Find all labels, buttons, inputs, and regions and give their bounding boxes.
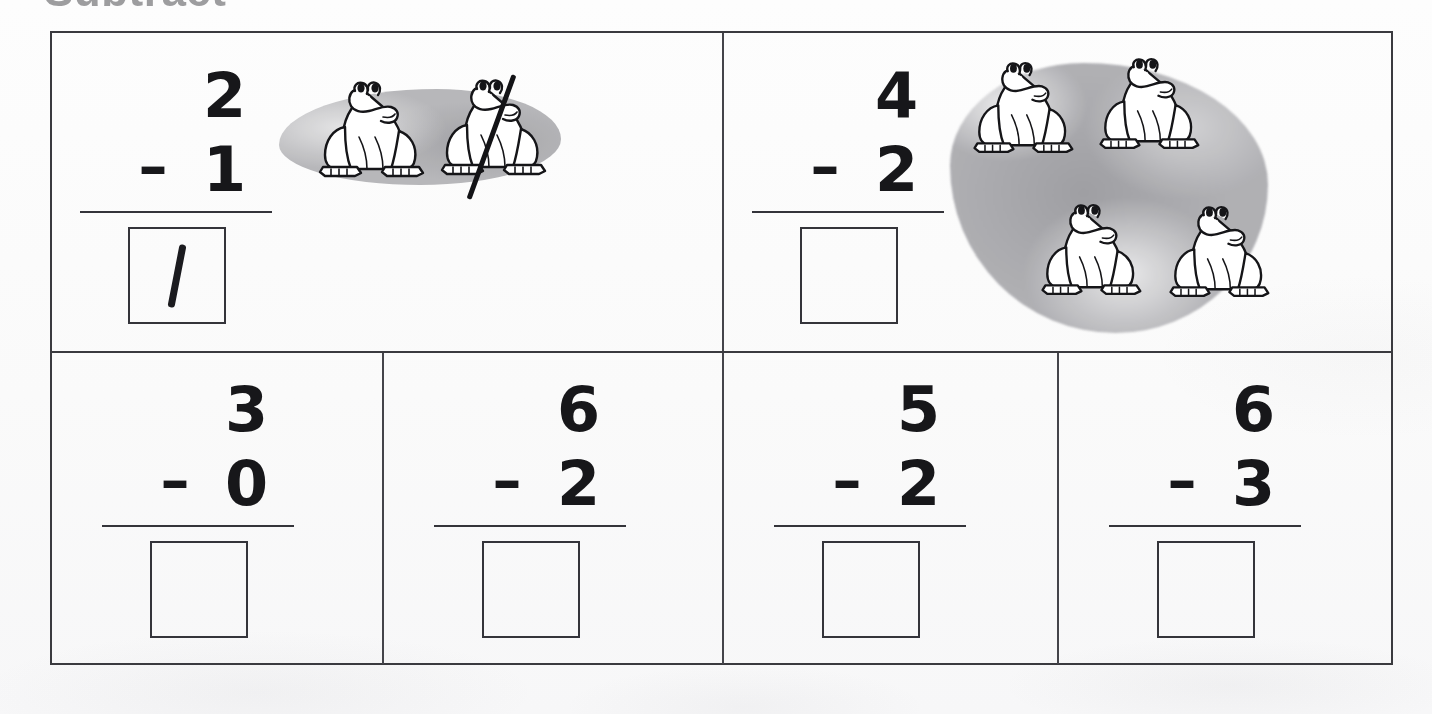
- minus-sign-icon: –: [1159, 451, 1205, 509]
- subtraction-problem-4: 6 – 2: [434, 373, 626, 638]
- minus-sign-icon: –: [484, 451, 530, 509]
- worksheet-page: Subtract 2 – 1: [0, 0, 1432, 714]
- problem-cell-3[interactable]: 3 – 0: [52, 353, 382, 664]
- answer-rule-2: [752, 211, 944, 213]
- subtraction-problem-6: 6 – 3: [1109, 373, 1301, 638]
- answer-rule-1: [80, 211, 272, 213]
- answer-box-1[interactable]: [128, 227, 226, 324]
- frog-icon: [1034, 201, 1146, 309]
- subtraction-problem-3: 3 – 0: [102, 373, 294, 638]
- grid-row-top: 2 – 1: [52, 33, 1391, 351]
- grid-row-bottom: 3 – 0 6 –: [52, 351, 1391, 664]
- subtrahend-row-3: – 0: [102, 447, 294, 521]
- frog-icon: [966, 59, 1078, 167]
- problem-cell-5[interactable]: 5 – 2: [722, 353, 1057, 664]
- problem-cell-2[interactable]: 4 – 2: [722, 33, 1395, 351]
- minuend-row-6: 6: [1109, 373, 1301, 447]
- answer-rule-5: [774, 525, 966, 527]
- subtrahend-row-1: – 1: [80, 133, 272, 207]
- subtrahend-row-2: – 2: [752, 133, 944, 207]
- subtrahend-5: 2: [870, 453, 966, 515]
- subtrahend-row-5: – 2: [774, 447, 966, 521]
- minuend-row-3: 3: [102, 373, 294, 447]
- minus-sign-icon: –: [824, 451, 870, 509]
- minuend-row-4: 6: [434, 373, 626, 447]
- frog-icon: [1162, 203, 1274, 311]
- frog-illustration-1: [277, 65, 577, 215]
- problem-cell-4[interactable]: 6 – 2: [382, 353, 722, 664]
- answer-rule-4: [434, 525, 626, 527]
- minuend-row-5: 5: [774, 373, 966, 447]
- minuend-6: 6: [1205, 379, 1301, 441]
- minuend-row-1: 2: [80, 59, 272, 133]
- subtrahend-1: 1: [176, 139, 272, 201]
- subtraction-problem-2: 4 – 2: [752, 59, 944, 324]
- minuend-5: 5: [870, 379, 966, 441]
- subtrahend-4: 2: [530, 453, 626, 515]
- subtrahend-2: 2: [848, 139, 944, 201]
- minus-sign-icon: –: [152, 451, 198, 509]
- problem-grid: 2 – 1: [50, 31, 1393, 665]
- minus-sign-icon: –: [802, 137, 848, 195]
- frog-icon: [311, 79, 429, 191]
- subtraction-problem-5: 5 – 2: [774, 373, 966, 638]
- minuend-1: 2: [176, 65, 272, 127]
- subtraction-problem-1: 2 – 1: [80, 59, 272, 324]
- answer-box-6[interactable]: [1157, 541, 1255, 638]
- minuend-4: 6: [530, 379, 626, 441]
- minuend-row-2: 4: [752, 59, 944, 133]
- page-title: Subtract: [44, 0, 226, 16]
- answer-box-2[interactable]: [800, 227, 898, 324]
- minuend-2: 4: [848, 65, 944, 127]
- answer-rule-6: [1109, 525, 1301, 527]
- minuend-3: 3: [198, 379, 294, 441]
- answer-box-5[interactable]: [822, 541, 920, 638]
- subtrahend-6: 3: [1205, 453, 1301, 515]
- subtrahend-3: 0: [198, 453, 294, 515]
- answer-box-3[interactable]: [150, 541, 248, 638]
- subtrahend-row-6: – 3: [1109, 447, 1301, 521]
- frog-icon: [1092, 55, 1204, 163]
- frog-illustration-2: [942, 51, 1302, 346]
- answer-box-4[interactable]: [482, 541, 580, 638]
- answer-rule-3: [102, 525, 294, 527]
- handwritten-answer-1: [167, 243, 186, 307]
- problem-cell-6[interactable]: 6 – 3: [1057, 353, 1395, 664]
- problem-cell-1[interactable]: 2 – 1: [52, 33, 722, 351]
- subtrahend-row-4: – 2: [434, 447, 626, 521]
- minus-sign-icon: –: [130, 137, 176, 195]
